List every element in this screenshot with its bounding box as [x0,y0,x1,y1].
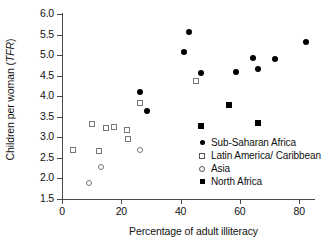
data-point [103,125,109,131]
data-point [137,100,143,106]
y-axis-tick-label: 2.0 [40,171,54,183]
y-axis-tick: 2.5 [57,158,62,159]
data-point [111,124,117,130]
legend-item-label: North Africa [208,176,262,187]
legend-item: Latin America/ Caribbean [196,149,321,162]
data-point [303,39,309,45]
y-axis-tick: 3.5 [57,117,62,118]
scatter-plot-figure: Children per woman (TFR) 1.52.02.53.03.5… [0,0,325,249]
data-point [137,89,143,95]
open-circle-marker-icon [196,166,208,172]
y-axis-label-prefix: Children per woman ( [4,62,16,160]
y-axis-tick: 2.0 [57,178,62,179]
data-point [198,123,204,129]
data-point [96,148,102,154]
y-axis-tick: 4.5 [57,76,62,77]
data-point [186,29,192,35]
x-axis-tick: 60 [240,199,241,204]
y-axis-tick-label: 2.5 [40,151,54,163]
y-axis-tick: 5.5 [57,35,62,36]
y-axis-tick: 5.0 [57,55,62,56]
legend-item-label: Asia [208,163,230,174]
x-axis-label: Percentage of adult illiteracy [62,225,325,237]
data-point [70,147,76,153]
marker-glyph [199,153,205,159]
marker-glyph [199,166,205,172]
data-point [137,147,143,153]
data-point [89,121,95,127]
data-point [250,55,256,61]
data-point [226,102,232,108]
y-axis-tick-label: 3.0 [40,130,54,142]
y-axis-label-suffix: ) [4,39,16,42]
filled-square-marker-icon [196,179,208,184]
x-axis-tick-label: 40 [175,205,186,217]
legend-item-label: Sub-Saharan Africa [208,137,296,148]
data-point [255,120,261,126]
legend-item-label: Latin America/ Caribbean [208,150,321,161]
legend: Sub-Saharan AfricaLatin America/ Caribbe… [196,136,321,188]
data-point [193,78,199,84]
marker-glyph [200,140,205,145]
data-point [98,164,104,170]
data-point [125,136,131,142]
open-square-marker-icon [196,153,208,159]
y-axis-tick-label: 5.0 [40,48,54,60]
x-axis-tick-label: 60 [234,205,245,217]
marker-glyph [200,179,205,184]
y-axis-tick-label: 4.0 [40,89,54,101]
x-axis-tick-label: 20 [116,205,127,217]
y-axis-label: Children per woman (TFR) [2,0,18,199]
y-axis-tick-label: 3.5 [40,110,54,122]
y-axis-tick-label: 4.5 [40,69,54,81]
x-axis-tick: 0 [62,199,63,204]
x-axis-tick-label: 80 [294,205,305,217]
y-axis-label-italic: TFR [4,42,16,62]
data-point [181,49,187,55]
data-point [86,180,92,186]
data-point [124,127,130,133]
data-point [233,69,239,75]
y-axis-tick-label: 6.0 [40,7,54,19]
x-axis-tick: 40 [181,199,182,204]
data-point [144,108,150,114]
filled-circle-marker-icon [196,140,208,145]
y-axis-tick-label: 5.5 [40,28,54,40]
x-axis-tick: 80 [299,199,300,204]
legend-item: Asia [196,162,321,175]
x-axis-tick: 20 [121,199,122,204]
y-axis-tick: 3.0 [57,137,62,138]
data-point [272,56,278,62]
data-point [255,66,261,72]
y-axis-tick: 6.0 [57,14,62,15]
x-axis-line [62,199,315,200]
y-axis-tick: 4.0 [57,96,62,97]
legend-item: North Africa [196,175,321,188]
y-axis-tick-label: 1.5 [40,192,54,204]
x-axis-tick-label: 0 [59,205,65,217]
data-point [198,70,204,76]
legend-item: Sub-Saharan Africa [196,136,321,149]
